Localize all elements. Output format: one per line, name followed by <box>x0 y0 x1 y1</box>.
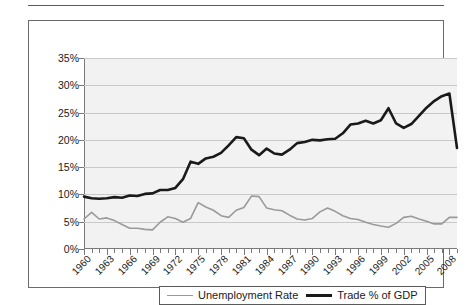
legend-item-trade: Trade % of GDP <box>306 290 417 301</box>
x-axis-tick <box>259 249 260 253</box>
y-axis-labels: 0%5%10%15%20%25%30%35% <box>29 58 79 249</box>
x-axis-tick <box>366 249 367 253</box>
top-divider <box>28 5 444 6</box>
x-axis-tick <box>206 249 207 253</box>
x-axis-tick <box>350 249 351 253</box>
x-axis-tick <box>137 249 138 253</box>
x-axis-tick <box>251 249 252 253</box>
series-line <box>84 93 457 198</box>
y-axis-tick-label: 5% <box>64 217 79 227</box>
x-axis-tick <box>191 249 192 253</box>
x-axis-tick <box>373 249 374 253</box>
x-axis-tick <box>434 249 435 253</box>
x-axis-tick <box>92 249 93 253</box>
legend-label: Trade % of GDP <box>337 290 417 301</box>
x-axis-tick <box>411 249 412 253</box>
x-axis-tick <box>122 249 123 253</box>
x-axis-tick <box>282 249 283 253</box>
x-axis-tick <box>457 249 458 253</box>
x-axis-tick <box>442 249 443 253</box>
x-axis-tick <box>213 249 214 253</box>
legend-label: Unemployment Rate <box>198 290 298 301</box>
y-axis-tick-label: 0% <box>64 244 79 254</box>
y-axis-tick-label: 35% <box>58 53 79 63</box>
y-axis-tick-label: 10% <box>58 189 79 199</box>
x-axis-tick <box>274 249 275 253</box>
x-axis-tick <box>145 249 146 253</box>
series-lines <box>84 58 457 249</box>
x-axis-tick <box>396 249 397 253</box>
legend-item-unemployment: Unemployment Rate <box>167 290 298 301</box>
x-axis-tick <box>297 249 298 253</box>
x-axis-tick <box>236 249 237 253</box>
x-axis-tick <box>160 249 161 253</box>
x-axis-tick <box>320 249 321 253</box>
line-swatch-icon <box>167 295 193 296</box>
series-line <box>84 196 457 230</box>
x-axis-tick <box>114 249 115 253</box>
chart-legend: Unemployment Rate Trade % of GDP <box>159 286 426 305</box>
y-axis-tick-label: 15% <box>58 162 79 172</box>
x-axis-tick <box>343 249 344 253</box>
line-swatch-icon <box>306 294 332 297</box>
x-axis-tick <box>99 249 100 253</box>
x-axis-tick <box>388 249 389 253</box>
x-axis-tick <box>229 249 230 253</box>
x-axis-tick <box>168 249 169 253</box>
y-axis-tick-label: 30% <box>58 80 79 90</box>
x-axis-tick <box>183 249 184 253</box>
x-axis-tick <box>419 249 420 253</box>
plot-area <box>84 58 457 249</box>
x-axis-tick <box>305 249 306 253</box>
chart-frame: 0%5%10%15%20%25%30%35% 19601963196619691… <box>28 20 444 288</box>
y-axis-tick-label: 20% <box>58 135 79 145</box>
y-axis-tick-label: 25% <box>58 108 79 118</box>
x-axis-tick <box>328 249 329 253</box>
